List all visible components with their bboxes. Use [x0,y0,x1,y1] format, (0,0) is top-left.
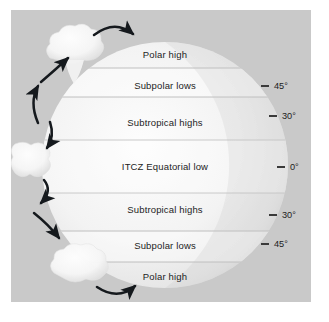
latitude-dash-icon [261,85,269,86]
band-label-polar-high-north: Polar high [143,50,187,60]
band-label-polar-high-south: Polar high [143,272,187,282]
globe-container: Polar high Subpolar lows Subtropical hig… [11,10,311,302]
latitude-dash-icon [269,115,277,116]
band-label-subtropical-highs-north: Subtropical highs [127,118,202,128]
arrow-ferrel-cell-ascending [41,58,68,82]
band-label-subtropical-highs-south: Subtropical highs [127,205,202,215]
latitude-dash-icon [261,243,269,244]
band-label-subpolar-lows-south: Subpolar lows [134,241,196,251]
diagram-panel: Polar high Subpolar lows Subtropical hig… [11,10,311,302]
latitude-dash-icon [277,166,285,167]
latitude-marker-0: 0° [277,162,299,172]
latitude-label-45-north: 45° [274,81,288,91]
band-label-itcz-equatorial-low: ITCZ Equatorial low [122,162,208,172]
latitude-marker-45-south: 45° [261,239,288,249]
cloud-equatorial [11,142,51,177]
latitude-marker-45-north: 45° [261,81,288,91]
latitude-marker-30-south: 30° [269,210,296,220]
latitude-label-30-south: 30° [282,210,296,220]
latitude-label-30-north: 30° [282,111,296,121]
arrow-ferrel-cell-north [34,86,39,123]
arrow-polar-cell-bottom [97,286,135,294]
latitude-label-45-south: 45° [274,239,288,249]
latitude-dash-icon [269,214,277,215]
figure-canvas: Polar high Subpolar lows Subtropical hig… [0,0,329,322]
band-label-subpolar-lows-north: Subpolar lows [134,81,196,91]
latitude-label-0: 0° [290,162,299,172]
latitude-marker-30-north: 30° [269,111,296,121]
